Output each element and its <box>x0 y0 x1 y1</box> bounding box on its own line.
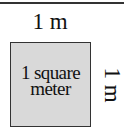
width-label: 1 m <box>0 10 100 34</box>
square-label-line-2: meter <box>30 77 70 101</box>
unit-square: 1 square meter <box>10 42 91 127</box>
top-divider-line <box>0 2 124 4</box>
height-label: 1 m <box>101 65 123 105</box>
